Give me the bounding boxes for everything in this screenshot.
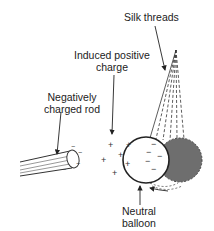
balloon-label-line2: balloon: [122, 217, 156, 229]
plus-sign: +: [125, 159, 130, 169]
plus-sign: +: [126, 140, 131, 150]
silk-threads-label: Silk threads: [124, 11, 179, 23]
plus-sign: +: [112, 168, 117, 178]
minus-sign: −: [151, 139, 156, 149]
induced-positive-line1: Induced positive: [74, 49, 150, 61]
plus-sign: +: [108, 140, 113, 150]
charge-symbols: + + + + + + − − − − − − − − −: [0, 0, 214, 231]
minus-sign: −: [157, 151, 162, 161]
plus-sign: +: [101, 155, 106, 165]
negatively-charged-rod-label: Negatively charged rod: [44, 91, 100, 115]
minus-sign: −: [145, 156, 150, 166]
minus-sign: −: [78, 149, 82, 156]
induced-positive-line2: charge: [74, 61, 150, 73]
rod-label-line1: Negatively: [44, 91, 100, 103]
induced-positive-charge-label: Induced positive charge: [74, 49, 150, 73]
minus-sign: −: [151, 164, 156, 174]
minus-sign: −: [71, 143, 75, 150]
balloon-label-line1: Neutral: [122, 205, 156, 217]
minus-sign: −: [62, 166, 66, 173]
neutral-balloon-label: Neutral balloon: [122, 205, 156, 229]
rod-label-line2: charged rod: [44, 103, 100, 115]
plus-sign: +: [118, 150, 123, 160]
minus-sign: −: [76, 160, 80, 167]
